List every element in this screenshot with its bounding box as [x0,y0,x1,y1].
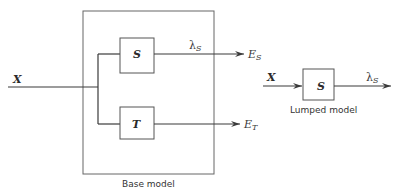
block-s-label: S [133,48,141,61]
base-model-frame [83,11,214,174]
e-s-label: ES [247,48,262,62]
diagram-canvas: X S T λS ES ET Base model X [0,0,402,191]
lumped-model: X S λS Lumped model [263,69,391,115]
base-model-caption: Base model [122,179,175,189]
lumped-model-caption: Lumped model [290,105,357,115]
block-t-label: T [132,118,141,131]
base-model: X S T λS ES ET Base model [8,11,262,189]
lumped-input-label: X [266,71,276,84]
e-t-label: ET [243,118,258,132]
base-input-label: X [12,73,22,86]
lumped-lambda-label: λS [366,71,379,85]
lumped-block-s-label: S [317,80,325,93]
diagram-svg: X S T λS ES ET Base model X [0,0,402,191]
lambda-s-label: λS [189,39,202,53]
